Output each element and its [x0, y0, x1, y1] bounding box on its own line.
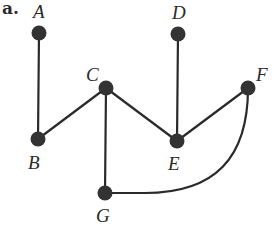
node-label-g: G	[96, 205, 110, 226]
node-label-a: A	[31, 1, 45, 22]
node-label-c: C	[86, 64, 99, 85]
edge-a-b	[38, 33, 39, 139]
edges-group	[38, 33, 248, 193]
node-b	[31, 132, 46, 147]
node-a	[32, 26, 47, 41]
edge-c-e	[106, 88, 177, 141]
node-label-e: E	[167, 153, 180, 174]
edge-d-e	[177, 34, 178, 141]
edge-b-c	[38, 88, 106, 139]
edge-e-f	[177, 88, 248, 141]
node-c	[99, 81, 114, 96]
node-label-b: B	[28, 152, 40, 173]
node-g	[98, 186, 113, 201]
node-f	[241, 81, 256, 96]
nodes-group	[31, 26, 256, 201]
graph-canvas: ABCDEFG	[0, 0, 274, 234]
node-d	[171, 27, 186, 42]
node-label-f: F	[255, 64, 268, 85]
graph-figure: a. ABCDEFG	[0, 0, 274, 234]
panel-label: a.	[2, 0, 19, 18]
node-e	[170, 134, 185, 149]
edge-c-g	[105, 88, 106, 193]
node-label-d: D	[171, 2, 186, 23]
